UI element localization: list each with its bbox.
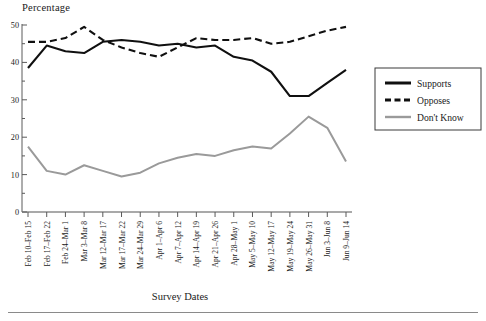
x-tick-label: Mar 3–Mar 8 <box>80 221 89 262</box>
y-tick-label: 50 <box>11 21 19 30</box>
x-tick-label: Apr 1–Apr 6 <box>155 221 164 260</box>
y-tick-label: 10 <box>11 171 19 180</box>
bottom-divider <box>8 312 478 313</box>
series-line-supports <box>28 40 346 96</box>
x-tick-label: Feb 10–Feb 15 <box>24 221 33 267</box>
x-tick-label: Apr 28–May 1 <box>230 221 239 266</box>
x-tick-label: Apr 7–Apr 12 <box>174 221 183 264</box>
x-tick-label: Feb 17–Feb 22 <box>43 221 52 267</box>
x-tick-label: May 5–May 10 <box>248 221 257 268</box>
x-tick-label: Jun 3–Jun 8 <box>323 221 332 257</box>
y-axis-title: Percentage <box>22 2 70 13</box>
chart-figure: Percentage Survey Dates 01020304050 Feb … <box>0 0 486 321</box>
x-tick-labels: Feb 10–Feb 15Feb 17–Feb 22Feb 24–Mar 1Ma… <box>24 221 351 272</box>
series-layer <box>28 27 346 177</box>
y-tick-label: 30 <box>11 96 19 105</box>
x-axis-title: Survey Dates <box>0 291 360 302</box>
chart-legend: SupportsOpposesDon't Know <box>375 68 481 130</box>
x-tick-label: Apr 21–Apr 26 <box>211 221 220 268</box>
x-tick-label: May 26–May 31 <box>305 221 314 272</box>
y-tick-label: 40 <box>11 58 19 67</box>
x-tick-label: Apr 14–Apr 19 <box>192 221 201 268</box>
x-tick-label: Mar 24–Mar 29 <box>136 221 145 269</box>
y-tick-label: 0 <box>15 208 19 217</box>
series-line-don-t-know <box>28 117 346 177</box>
x-tick-label: Mar 12–Mar 17 <box>99 221 108 269</box>
x-tick-label: Feb 24–Mar 1 <box>61 221 70 264</box>
line-chart-svg: 01020304050 Feb 10–Feb 15Feb 17–Feb 22Fe… <box>0 0 486 321</box>
x-tick-label: Mar 17–Mar 22 <box>118 221 127 269</box>
x-tick-label: Jun 9–Jun 14 <box>342 221 351 261</box>
legend-label: Opposes <box>417 95 450 106</box>
legend-label: Don't Know <box>417 112 464 123</box>
x-tick-label: May 19–May 24 <box>286 221 295 272</box>
x-tick-label: May 12–May 17 <box>267 221 276 272</box>
legend-label: Supports <box>417 78 451 89</box>
y-tick-label: 20 <box>11 133 19 142</box>
